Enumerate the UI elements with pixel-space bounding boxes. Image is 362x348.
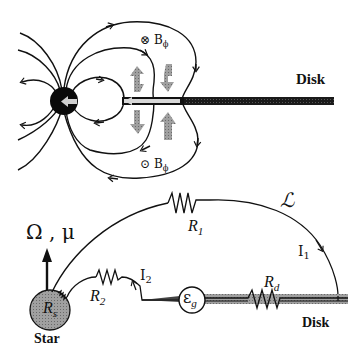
arrow-down-left-icon	[130, 110, 145, 134]
b-phi-label-top: ⊗ Bϕ	[140, 34, 168, 48]
star-disk-diagram: Disk ⊗ Bϕ ⊙ Bϕ Ω , μ Star Disk ℒ R1 R2 R…	[0, 0, 362, 348]
i2-label: I2	[140, 268, 152, 285]
star-label: Star	[34, 332, 60, 346]
r1-label: R1	[188, 218, 203, 237]
disk-label-top: Disk	[296, 72, 325, 87]
accretion-disk-top	[122, 97, 334, 105]
b-phi-label-bottom: ⊙ Bϕ	[140, 158, 168, 172]
i1-label: I1	[298, 244, 310, 261]
spin-axis-arrow	[42, 248, 52, 290]
emf-label: εg	[183, 290, 197, 309]
spin-magnetic-moment-label: Ω , μ	[26, 222, 75, 242]
lower-circuit-branch	[67, 270, 180, 300]
rs-label: Rs	[43, 300, 57, 319]
upper-circuit-branch	[52, 193, 338, 296]
star-top	[50, 87, 78, 115]
out-of-page-icon: ⊙	[140, 157, 150, 171]
r2-label: R2	[90, 288, 105, 307]
arrow-up-right-icon	[160, 112, 176, 140]
disk-bottom	[142, 290, 348, 308]
disk-label-bottom: Disk	[302, 316, 329, 330]
arrow-up-left-icon	[130, 66, 144, 92]
rd-label: Rd	[264, 274, 279, 293]
diagram-graphics	[0, 0, 362, 348]
inductance-label: ℒ	[280, 190, 294, 210]
arrow-down-right-icon	[160, 64, 174, 92]
into-page-icon: ⊗	[140, 33, 150, 47]
